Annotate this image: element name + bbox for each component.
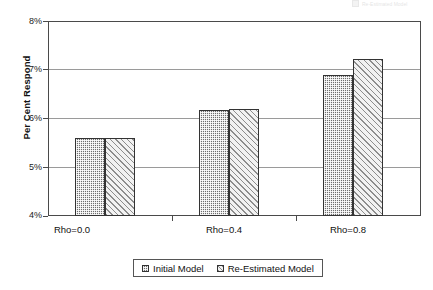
x-tick-mark-2: [296, 216, 297, 221]
y-tick-label-7: 7%: [14, 64, 42, 74]
x-tick-label-rho-0-0: Rho=0.0: [12, 224, 132, 235]
gridline-5: [49, 167, 420, 168]
y-tick-mark-4: [43, 216, 48, 217]
x-tick-label-rho-0-8: Rho=0.8: [288, 224, 408, 235]
x-tick-label-rho-0-4: Rho=0.4: [164, 224, 284, 235]
y-tick-label-4: 4%: [14, 210, 42, 220]
y-tick-label-8: 8%: [14, 16, 42, 26]
legend-item-initial-model: Initial Model: [142, 263, 204, 274]
clipped-legend-swatch: [352, 0, 359, 7]
chart-legend: Initial Model Re-Estimated Model: [133, 259, 323, 277]
gridline-7: [49, 69, 420, 70]
clipped-legend-artifact: Re-Estimated Model: [352, 0, 430, 7]
gridline-6: [49, 118, 420, 119]
bar-chart: Re-Estimated Model Per Cent Respond 8% 7…: [0, 0, 433, 290]
legend-item-re-estimated-model: Re-Estimated Model: [217, 263, 314, 274]
legend-label-reestimated: Re-Estimated Model: [228, 263, 314, 274]
plot-area: [48, 21, 421, 216]
y-tick-label-6: 6%: [14, 113, 42, 123]
y-axis-title: Per Cent Respond: [21, 28, 32, 168]
x-tick-mark-1: [172, 216, 173, 221]
y-tick-label-5: 5%: [14, 162, 42, 172]
legend-label-initial: Initial Model: [153, 263, 204, 274]
legend-swatch-icon-initial: [142, 265, 149, 272]
legend-swatch-icon-reestimated: [217, 265, 224, 272]
clipped-legend-label: Re-Estimated Model: [362, 1, 407, 7]
